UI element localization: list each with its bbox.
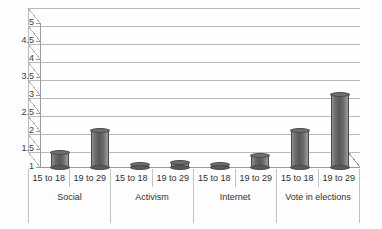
bar-top-ellipse [90,128,110,133]
bar-top-ellipse [330,92,350,97]
bar-social-19-to-29 [91,131,109,167]
bar-internet-15-to-18 [211,165,229,167]
bar-internet-19-to-29 [251,156,269,167]
group-axis-labels: SocialActivismInternetVote in elections [28,187,361,223]
bar-vote-in-elections-19-to-29 [331,95,349,167]
group-label-social: Social [28,187,111,223]
category-label-3: 19 to 29 [153,169,195,187]
bar-body [331,95,349,167]
group-label-internet: Internet [194,187,277,223]
bar-social-15-to-18 [51,153,69,167]
bar-activism-19-to-29 [171,163,189,167]
bar-vote-in-elections-15-to-18 [291,131,309,167]
category-label-6: 15 to 18 [277,169,319,187]
category-label-7: 19 to 29 [319,169,361,187]
bar-chart: 54.543.532.521.51 15 to 1819 to 2915 to … [0,0,382,229]
category-axis-labels: 15 to 1819 to 2915 to 1819 to 2915 to 18… [28,169,361,187]
category-label-1: 19 to 29 [70,169,112,187]
bar-activism-15-to-18 [131,165,149,167]
group-label-vote-in-elections: Vote in elections [277,187,360,223]
category-label-0: 15 to 18 [28,169,70,187]
category-label-5: 19 to 29 [236,169,278,187]
category-label-2: 15 to 18 [111,169,153,187]
bar-top-ellipse [290,128,310,133]
category-label-4: 15 to 18 [194,169,236,187]
bar-body [291,131,309,167]
group-label-activism: Activism [111,187,194,223]
bar-top-ellipse [50,150,70,155]
bar-body [91,131,109,167]
